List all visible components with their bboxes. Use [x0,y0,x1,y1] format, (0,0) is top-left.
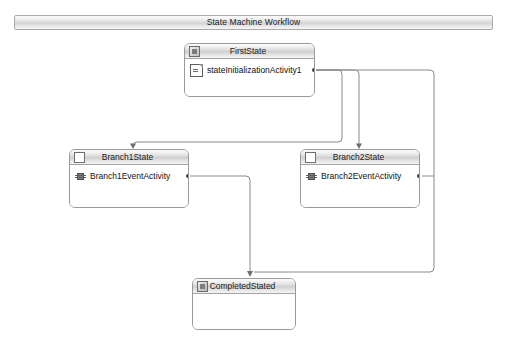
state-initialization-icon [190,64,203,77]
workflow-title-label: State Machine Workflow [207,18,301,27]
connector-branch1-to-completed-arrowhead [247,271,253,277]
state-node-branch2-state[interactable]: Branch2State Branch2EventActivity [300,149,420,208]
state-title-branch1-state: Branch1State [85,153,188,162]
activity-label-state-initialization-activity-1: stateInitializationActivity1 [207,66,302,75]
activity-state-initialization-activity-1[interactable]: stateInitializationActivity1 [190,63,310,77]
state-header-first-state[interactable]: FirstState [185,44,314,59]
state-header-branch2-state[interactable]: Branch2State [301,150,419,165]
state-body-branch1-state[interactable]: Branch1EventActivity [70,165,188,207]
activity-branch1-event-activity[interactable]: Branch1EventActivity [75,169,184,183]
state-header-completed-stated[interactable]: CompletedStated [193,279,295,294]
connector-anchor-first-state-out [312,68,315,72]
activity-label-branch1-event-activity: Branch1EventActivity [90,172,170,181]
workflow-title-bar[interactable]: State Machine Workflow [14,15,493,30]
state-node-first-state[interactable]: FirstState stateInitializationActivity1 [184,43,315,97]
activity-branch2-event-activity[interactable]: Branch2EventActivity [306,169,415,183]
state-header-branch1-state[interactable]: Branch1State [70,150,188,165]
connector-anchor-branch2-out [417,174,420,178]
connector-first-to-branch2 [316,70,359,147]
state-body-first-state[interactable]: stateInitializationActivity1 [185,59,314,96]
connector-branch1-to-completed [190,176,250,274]
event-driven-icon [306,171,317,182]
state-node-completed-stated[interactable]: CompletedStated [192,278,296,330]
workflow-designer-canvas[interactable]: State Machine Workflow FirstState stateI… [0,0,507,346]
state-title-first-state: FirstState [200,47,314,56]
state-body-branch2-state[interactable]: Branch2EventActivity [301,165,419,207]
state-icon [305,152,316,163]
state-icon [74,152,85,163]
event-driven-icon [75,171,86,182]
state-node-branch1-state[interactable]: Branch1State Branch1EventActivity [69,149,189,208]
initial-state-icon [189,46,200,57]
connector-anchor-branch1-out [186,174,189,178]
state-body-completed-stated[interactable] [193,294,295,329]
state-title-completed-stated: CompletedStated [208,282,295,291]
completed-state-icon [197,281,208,292]
activity-label-branch2-event-activity: Branch2EventActivity [321,172,401,181]
state-title-branch2-state: Branch2State [316,153,419,162]
